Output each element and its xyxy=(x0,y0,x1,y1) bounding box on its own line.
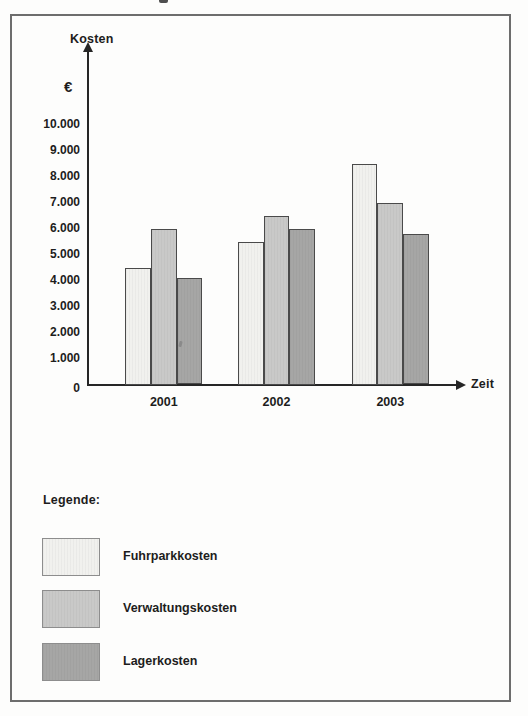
legend-heading: Legende: xyxy=(43,493,100,507)
y-tick-label: 1.000 xyxy=(20,351,80,365)
y-tick-label: 9.000 xyxy=(20,143,80,157)
legend-swatch-lagerkosten xyxy=(42,643,100,681)
bar-2001-verwaltungskosten xyxy=(151,229,177,385)
y-tick-label: 3.000 xyxy=(20,299,80,313)
bar-2001-lagerkosten xyxy=(177,278,203,385)
y-tick-label: 5.000 xyxy=(20,247,80,261)
y-tick-label: 2.000 xyxy=(20,325,80,339)
legend-label-lagerkosten: Lagerkosten xyxy=(123,654,197,668)
legend-swatch-fuhrparkkosten xyxy=(42,538,100,576)
y-tick-label: 8.000 xyxy=(20,169,80,183)
y-tick-label: 4.000 xyxy=(20,273,80,287)
bar-2002-verwaltungskosten xyxy=(264,216,290,385)
x-axis-arrow-icon xyxy=(456,380,466,390)
x-axis-title: Zeit xyxy=(471,377,494,391)
y-axis-unit: € xyxy=(64,78,73,95)
bar-2001-fuhrparkkosten xyxy=(125,268,151,385)
bar-2002-fuhrparkkosten xyxy=(238,242,264,385)
legend-label-fuhrparkkosten: Fuhrparkkosten xyxy=(123,549,217,563)
y-axis-line xyxy=(87,50,89,385)
y-tick-label: 0 xyxy=(20,381,80,395)
y-tick-label: 6.000 xyxy=(20,221,80,235)
x-category-label: 2001 xyxy=(129,395,199,409)
bar-2003-fuhrparkkosten xyxy=(352,164,378,385)
x-category-label: 2002 xyxy=(242,395,312,409)
y-tick-label: 10.000 xyxy=(20,117,80,131)
scan-artifact-icon xyxy=(159,0,168,3)
y-axis-arrow-icon xyxy=(83,42,93,52)
legend-label-verwaltungskosten: Verwaltungskosten xyxy=(123,601,237,615)
y-tick-label: 7.000 xyxy=(20,195,80,209)
bar-2003-verwaltungskosten xyxy=(377,203,403,385)
bar-2003-lagerkosten xyxy=(403,234,429,385)
bar-2002-lagerkosten xyxy=(289,229,315,385)
x-category-label: 2003 xyxy=(355,395,425,409)
figure-page: Kosten € Zeit 10.0009.0008.0007.0006.000… xyxy=(0,0,528,716)
legend-swatch-verwaltungskosten xyxy=(42,590,100,628)
